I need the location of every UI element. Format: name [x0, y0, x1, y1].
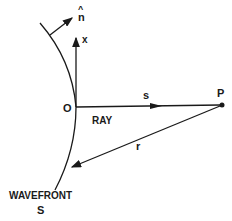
ray-segment-label: s [143, 89, 149, 101]
surface-label: S [37, 204, 44, 216]
normal-label: n [78, 11, 85, 23]
distance-label: r [136, 140, 141, 152]
ray-arrowhead-icon [150, 103, 162, 109]
x-axis-label: x [82, 34, 88, 45]
ray-label: RAY [92, 115, 113, 126]
ray-line [76, 105, 220, 107]
normal-vector-arrow [50, 18, 72, 35]
wavefront-diagram: ^ n x O s P RAY r WAVEFRONT S [0, 0, 232, 221]
point-label: P [217, 87, 224, 99]
origin-label: O [63, 102, 72, 114]
wavefront-label: WAVEFRONT [9, 190, 72, 201]
point-p-dot [220, 103, 225, 108]
